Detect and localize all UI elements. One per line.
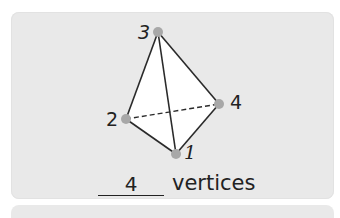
- answer-blank: 4: [98, 174, 164, 196]
- vertex-dot-1: [171, 149, 181, 159]
- vertex-dot-3: [153, 27, 163, 37]
- vertex-label-2: 2: [106, 110, 118, 129]
- vertex-label-3: 3: [138, 23, 150, 42]
- vertex-dot-2: [121, 114, 131, 124]
- vertex-label-1: 1: [184, 143, 196, 162]
- pyramid-figure: [0, 0, 340, 218]
- vertex-label-4: 4: [230, 93, 242, 112]
- answer-unit-label: vertices: [172, 173, 255, 194]
- vertex-dot-4: [214, 99, 224, 109]
